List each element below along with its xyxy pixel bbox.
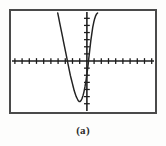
parabola-plot [11,11,155,112]
parabola-curve [58,13,98,101]
figure-container: (a) [0,0,166,146]
calculator-screen-frame [9,9,157,114]
figure-caption: (a) [0,124,166,136]
